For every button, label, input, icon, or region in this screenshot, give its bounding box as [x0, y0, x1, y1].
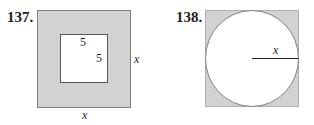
figure-square-with-inscribed-circle — [0, 0, 314, 125]
radius-label: x — [273, 44, 278, 56]
